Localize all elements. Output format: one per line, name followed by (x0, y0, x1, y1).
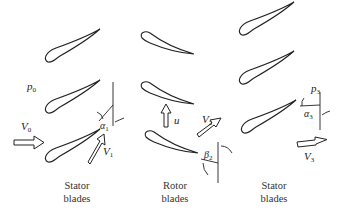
stator1-blades (45, 29, 100, 162)
stator2-blade-2 (239, 51, 294, 84)
rotor-blade-1 (141, 32, 194, 54)
caption-stator2-line2: blades (244, 192, 304, 205)
caption-rotor: Rotor blades (145, 179, 205, 205)
u-arrow (161, 104, 171, 127)
rotor-blade-3 (145, 131, 198, 153)
label-v1: V1 (103, 146, 113, 159)
stator2-blade-3 (241, 100, 296, 133)
label-alpha1: α1 (100, 121, 109, 133)
caption-rotor-line1: Rotor (145, 179, 205, 192)
label-u: u (174, 115, 180, 126)
stator1-blade-1 (45, 29, 100, 62)
stator2-blades (239, 2, 296, 133)
caption-stator2-line1: Stator (244, 179, 304, 192)
caption-stator1-line2: blades (47, 192, 107, 205)
rotor-blade-2 (141, 82, 194, 104)
rotor-blades (141, 32, 198, 153)
label-v3: V3 (304, 151, 314, 164)
v0-arrow (14, 136, 44, 149)
label-alpha3: α3 (304, 109, 313, 121)
stator2-blade-1 (239, 2, 294, 35)
label-v2: V2 (202, 114, 212, 127)
label-p3: p3 (311, 83, 320, 96)
label-beta2: β2 (204, 150, 212, 162)
stator1-blade-2 (45, 80, 100, 113)
caption-rotor-line2: blades (145, 192, 205, 205)
caption-stator1-line1: Stator (47, 179, 107, 192)
caption-stator2: Stator blades (244, 179, 304, 205)
label-p0: p0 (27, 81, 36, 94)
label-v0: V0 (21, 121, 31, 134)
caption-stator1: Stator blades (47, 179, 107, 205)
v3-arrow (297, 137, 327, 147)
blade-diagram: p0 V0 α1 V1 u V2 β2 p3 α3 V3 Stator blad… (0, 0, 344, 215)
